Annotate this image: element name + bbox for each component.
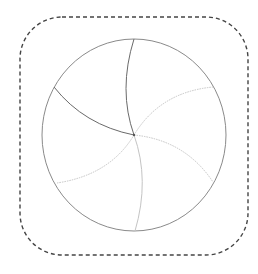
spoke-upper-left [54,87,134,135]
spoke-top [126,39,134,135]
spoke-upper-right [134,87,213,135]
shutter-icon-diagram [0,0,258,274]
spoke-bottom [134,135,142,231]
center-point [133,134,135,136]
spoke-lower-left [57,135,134,183]
spoke-lower-right [134,135,213,182]
